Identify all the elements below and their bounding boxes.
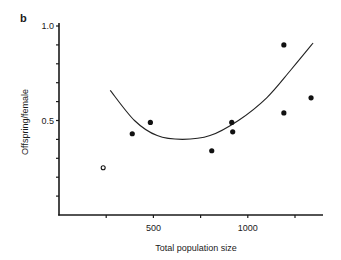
panel-label: b <box>20 12 27 24</box>
y-ticks: 0.51.0 <box>41 21 59 196</box>
y-tick-label: 0.5 <box>41 116 54 126</box>
x-tick-label: 1000 <box>238 223 258 233</box>
data-point <box>209 148 214 153</box>
scatter-chart: b 0.51.0 5001000 Offspring/female Total … <box>0 0 341 260</box>
open-data-point <box>101 166 105 170</box>
x-axis-title: Total population size <box>155 243 237 253</box>
y-tick-label: 1.0 <box>41 21 54 31</box>
data-point <box>308 95 313 100</box>
data-point <box>281 42 286 47</box>
data-points <box>101 42 313 169</box>
data-point <box>281 110 286 115</box>
x-tick-label: 500 <box>146 223 161 233</box>
axes <box>58 23 323 216</box>
y-axis-title: Offspring/female <box>20 89 30 155</box>
data-point <box>230 129 235 134</box>
data-point <box>148 120 153 125</box>
x-ticks: 5001000 <box>106 215 295 233</box>
data-point <box>130 131 135 136</box>
data-point <box>229 120 234 125</box>
fitted-curve <box>110 43 313 139</box>
